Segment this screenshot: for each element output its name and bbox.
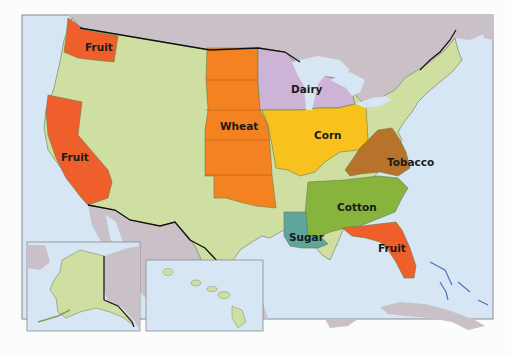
yucatan	[325, 319, 358, 328]
label-wheat: Wheat	[220, 120, 258, 132]
label-corn: Corn	[314, 129, 342, 141]
label-dairy: Dairy	[291, 83, 323, 95]
label-fruit-washington: Fruit	[85, 41, 113, 53]
label-cotton: Cotton	[337, 201, 377, 213]
label-fruit-california: Fruit	[61, 151, 89, 163]
label-tobacco: Tobacco	[387, 156, 434, 168]
hawaii-inset	[146, 260, 263, 331]
alaska-inset	[27, 242, 140, 331]
label-fruit-florida: Fruit	[378, 242, 406, 254]
label-sugar: Sugar	[289, 231, 325, 243]
agriculture-map: Fruit Fruit Wheat Dairy Corn Tobacco Cot…	[0, 0, 511, 357]
